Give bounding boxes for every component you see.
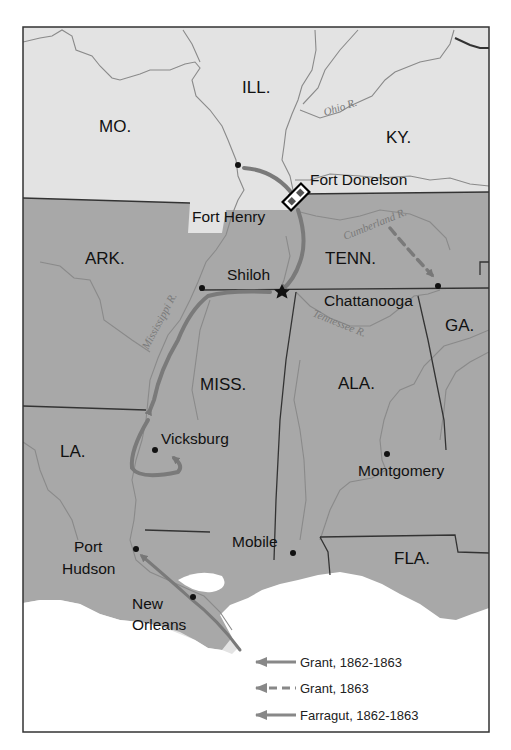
new-orleans-dot <box>190 594 196 600</box>
city-label-vicksburg: Vicksburg <box>161 430 229 447</box>
state-label-la: LA. <box>60 442 86 461</box>
city-label-montgomery: Montgomery <box>358 462 444 479</box>
legend-label: Grant, 1862-1863 <box>300 655 402 670</box>
city-label-port-hudson-line2: Hudson <box>62 560 115 577</box>
state-label-miss: MISS. <box>200 375 246 394</box>
chattanooga-dot <box>435 283 441 289</box>
cairo-dot <box>235 162 241 168</box>
city-label-fort-henry: Fort Henry <box>192 208 265 225</box>
city-label-chattanooga: Chattanooga <box>324 292 413 309</box>
state-label-fla: FLA. <box>394 549 430 568</box>
state-label-ga: GA. <box>445 316 474 335</box>
city-label-new-orleans-line1: New <box>132 595 164 612</box>
city-label-port-hudson-line1: Port <box>74 538 103 555</box>
civil-war-western-theater-map: MO. ILL. KY. ARK. TENN. GA. MISS. ALA. L… <box>0 0 511 750</box>
port-hudson-dot <box>133 546 139 552</box>
city-label-mobile: Mobile <box>232 533 278 550</box>
state-label-ill: ILL. <box>242 78 270 97</box>
city-label-new-orleans-line2: Orleans <box>132 616 187 633</box>
legend-label: Farragut, 1862-1863 <box>300 708 419 723</box>
state-label-mo: MO. <box>99 117 131 136</box>
city-label-fort-donelson: Fort Donelson <box>310 171 407 188</box>
city-label-shiloh: Shiloh <box>227 266 270 283</box>
state-label-ky: KY. <box>386 128 411 147</box>
legend-label: Grant, 1863 <box>300 681 369 696</box>
mobile-dot <box>290 550 296 556</box>
state-label-tenn: TENN. <box>325 249 376 268</box>
montgomery-dot <box>384 451 390 457</box>
state-label-ala: ALA. <box>338 374 375 393</box>
memphis-dot <box>199 285 205 291</box>
state-label-ark: ARK. <box>85 249 125 268</box>
vicksburg-dot <box>152 447 158 453</box>
